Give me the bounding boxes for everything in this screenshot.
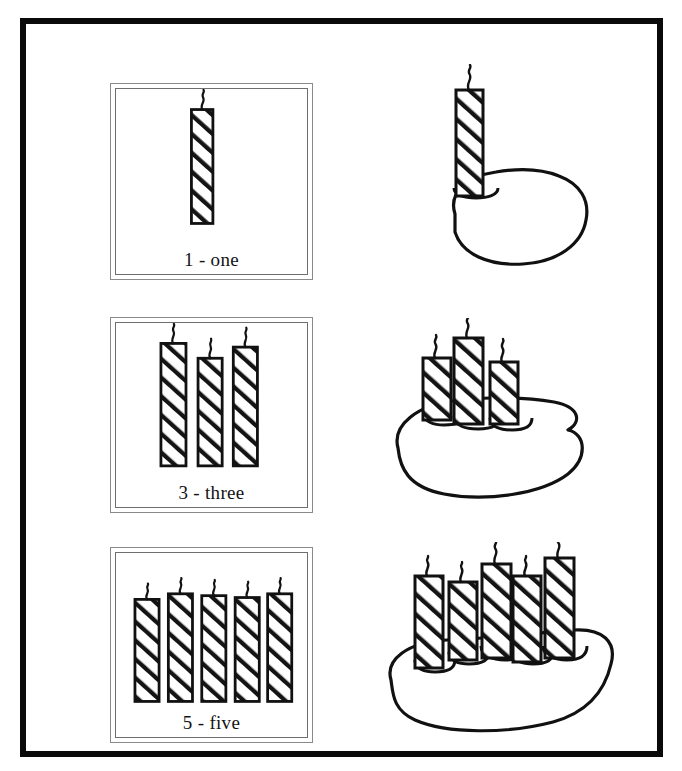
panel-label-three: 3 - three	[116, 481, 307, 505]
candle-icon	[198, 339, 222, 466]
candle-group-three	[116, 323, 307, 477]
candle-icon	[168, 578, 192, 701]
wick-icon	[146, 584, 148, 600]
worksheet-page: 1 - one	[0, 0, 682, 771]
page-border: 1 - one	[20, 18, 663, 757]
wick-icon	[434, 335, 436, 358]
candle-icon	[235, 582, 259, 702]
candle-icon	[482, 542, 511, 658]
wick-icon	[245, 328, 247, 347]
content-area: 1 - one	[52, 48, 682, 771]
wick-icon	[557, 542, 559, 558]
candle-icon	[449, 562, 477, 660]
wick-icon	[466, 318, 468, 338]
wick-icon	[279, 578, 281, 594]
candle-group-five	[116, 553, 307, 707]
wick-icon	[202, 90, 204, 110]
candle-icon	[490, 339, 518, 424]
cake-illustration-five	[377, 542, 677, 757]
candle-icon	[268, 578, 292, 701]
wick-icon	[426, 556, 428, 576]
panel-label-five: 5 - five	[116, 711, 307, 735]
candle-icon	[415, 556, 443, 668]
count-panel-inner: 3 - three	[115, 322, 308, 508]
cake-illustration-three	[382, 318, 667, 518]
candle-icon	[191, 90, 212, 224]
candle-icon	[423, 335, 451, 420]
wick-icon	[460, 562, 462, 582]
candle-icon	[202, 580, 226, 702]
wick-icon	[524, 556, 526, 576]
candle-icon	[233, 328, 257, 466]
wick-icon	[468, 65, 471, 90]
wick-icon	[172, 324, 174, 343]
wick-icon	[180, 578, 182, 594]
wick-icon	[494, 542, 496, 564]
candle-icon	[454, 318, 483, 424]
wick-icon	[501, 339, 503, 362]
wick-icon	[246, 582, 248, 598]
wick-icon	[209, 339, 211, 358]
candle-icon	[161, 324, 186, 466]
count-panel-five[interactable]: 5 - five	[110, 547, 313, 743]
candle-icon	[545, 542, 574, 658]
count-panel-inner: 5 - five	[115, 552, 308, 738]
count-panel-inner: 1 - one	[115, 88, 308, 275]
wick-icon	[213, 580, 215, 596]
count-panel-three[interactable]: 3 - three	[110, 317, 313, 513]
panel-label-one: 1 - one	[116, 248, 307, 272]
cake-illustration-one	[392, 64, 657, 280]
candle-icon	[513, 556, 541, 662]
candle-icon	[135, 584, 159, 702]
count-panel-one[interactable]: 1 - one	[110, 83, 313, 280]
candle-group-one	[116, 89, 307, 244]
candle-icon	[456, 65, 483, 196]
